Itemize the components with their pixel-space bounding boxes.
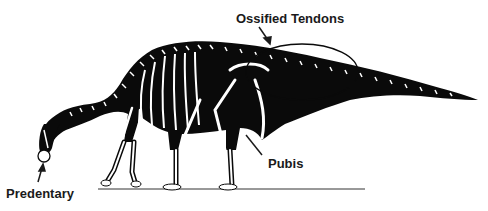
predentary-arrowhead-icon — [39, 164, 45, 171]
label-pubis: Pubis — [268, 157, 303, 170]
label-predentary: Predentary — [6, 187, 74, 200]
label-ossified-tendons: Ossified Tendons — [236, 12, 344, 25]
dinosaur-skeleton-figure: Ossified Tendons Pubis Predentary — [0, 0, 488, 211]
pubis-pointer-line — [246, 135, 262, 155]
skeleton-illustration — [0, 0, 488, 211]
tendons-arrowhead-icon — [264, 37, 271, 44]
predentary-highlight-circle — [38, 150, 50, 162]
